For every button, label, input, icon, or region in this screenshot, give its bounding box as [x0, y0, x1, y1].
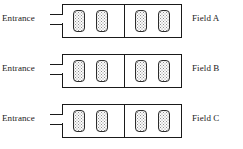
entrance-gap [62, 15, 64, 23]
plot [158, 110, 170, 132]
field-divider [124, 105, 125, 137]
plot [96, 10, 108, 32]
plot [73, 60, 85, 82]
plot [135, 60, 147, 82]
plot [158, 60, 170, 82]
plot [96, 110, 108, 132]
plot [96, 60, 108, 82]
field-divider [124, 5, 125, 37]
field-boundary [62, 54, 182, 88]
entrance-gap [62, 115, 64, 123]
field-layout-diagram: Entrance Field A Entrance [0, 0, 243, 149]
plot [135, 10, 147, 32]
field-label: Field A [192, 13, 242, 23]
field-divider [124, 55, 125, 87]
field-row: Entrance Field B [0, 50, 243, 94]
entrance-label: Entrance [2, 13, 50, 23]
field-label: Field B [192, 63, 242, 73]
plot [158, 10, 170, 32]
field-row: Entrance Field A [0, 0, 243, 44]
entrance-label: Entrance [2, 113, 50, 123]
plot [73, 10, 85, 32]
entrance-label: Entrance [2, 63, 50, 73]
field-boundary [62, 104, 182, 138]
plot [73, 110, 85, 132]
field-row: Entrance Field C [0, 100, 243, 144]
field-boundary [62, 4, 182, 38]
entrance-gap [62, 65, 64, 73]
plot [135, 110, 147, 132]
field-label: Field C [192, 113, 242, 123]
